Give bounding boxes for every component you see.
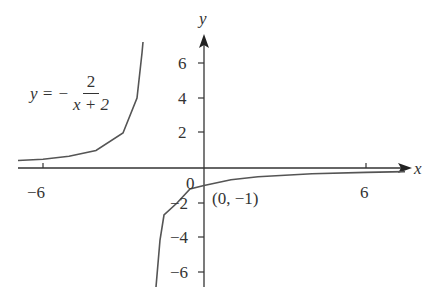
- x-tick-label: 6: [360, 184, 369, 201]
- x-tick-label: −6: [27, 184, 45, 201]
- y-tick-label: −4: [170, 229, 188, 246]
- y-tick-label: 2: [178, 124, 187, 141]
- point-annotation: (0, −1): [212, 190, 258, 207]
- x-axis-label: x: [414, 160, 422, 177]
- y-tick-label: 4: [178, 90, 187, 107]
- equation-label: y = − 2 x + 2: [30, 72, 109, 115]
- y-tick-label: −2: [170, 195, 188, 212]
- y-tick-label: −6: [170, 264, 188, 281]
- graph-canvas: [0, 0, 428, 287]
- y-tick-label: 6: [178, 55, 187, 72]
- origin-label: 0: [186, 175, 195, 192]
- y-axis-label: y: [199, 10, 207, 27]
